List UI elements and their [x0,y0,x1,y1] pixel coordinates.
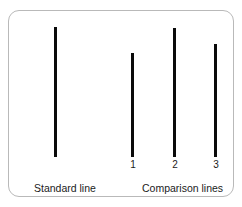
standard-line-caption: Standard line [34,182,96,195]
comparison-line-1 [131,53,134,157]
comparison-line-label-1: 1 [123,159,143,171]
comparison-line-label-2: 2 [165,159,185,171]
comparison-line-2 [173,28,176,157]
comparison-line-label-3: 3 [206,159,226,171]
comparison-line-3 [214,44,217,157]
stimulus-card: 1 2 3 Standard line Comparison lines [8,10,234,197]
comparison-line-group: 1 2 3 [9,11,233,196]
comparison-lines-caption: Comparison lines [142,182,223,195]
